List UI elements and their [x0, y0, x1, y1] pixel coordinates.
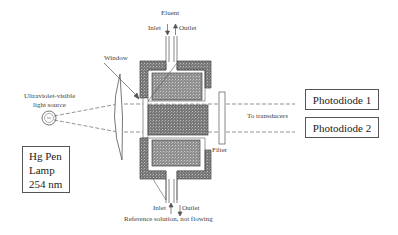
flow-cell: [140, 61, 211, 200]
window-label: Window: [104, 55, 128, 62]
light-source-label-line2: light source: [33, 102, 66, 109]
eluent-label: Eluent: [161, 10, 179, 17]
hg-lamp-line1: Hg Pen: [29, 149, 63, 163]
photodiode-1-box: Photodiode 1: [305, 89, 379, 110]
top-outlet-label: Outlet: [179, 25, 197, 32]
filter-label: Filter: [212, 147, 227, 154]
to-transducers-label: To transducers: [247, 113, 288, 120]
hg-lamp-line2: Lamp: [29, 163, 63, 177]
filter-icon: [219, 92, 225, 144]
hg-lamp-box: Hg Pen Lamp 254 nm: [22, 146, 70, 193]
bottom-inlet-label: Inlet: [153, 205, 166, 212]
top-inlet-label: Inlet: [148, 25, 161, 32]
bottom-outlet-label: Outlet: [182, 205, 200, 212]
light-source-icon: [42, 111, 56, 125]
hg-lamp-line3: 254 nm: [29, 177, 63, 191]
reference-solution-label: Reference solution, not flowing: [124, 216, 213, 223]
top-tubes: [166, 24, 178, 62]
bottom-tubes: [166, 179, 182, 216]
photodiode-2-box: Photodiode 2: [305, 117, 379, 138]
light-source-label-line1: Ultraviolet-visible: [24, 93, 75, 100]
lens-icon: [114, 74, 122, 160]
